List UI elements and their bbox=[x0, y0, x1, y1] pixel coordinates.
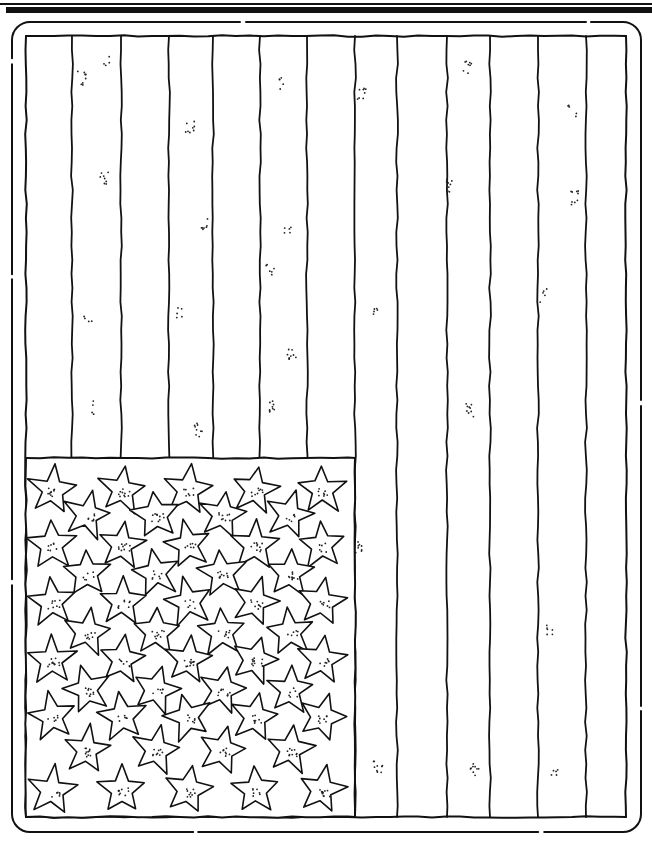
thin-rule bbox=[0, 3, 652, 5]
stipple-cluster bbox=[551, 769, 559, 776]
stipple-cluster bbox=[284, 226, 292, 233]
stipple-cluster bbox=[355, 541, 363, 554]
stipple-cluster bbox=[570, 190, 579, 205]
stipple-cluster bbox=[539, 288, 547, 303]
thick-rule bbox=[6, 7, 652, 13]
stripe-divider bbox=[489, 36, 491, 817]
stipple-cluster bbox=[463, 60, 473, 74]
stipple-cluster bbox=[91, 400, 94, 415]
stipple-cluster bbox=[279, 77, 285, 90]
stipple-cluster bbox=[373, 760, 384, 773]
stipple-cluster bbox=[83, 316, 92, 323]
stipple-cluster bbox=[77, 71, 87, 86]
flag-illustration bbox=[0, 0, 652, 841]
inner-border-top bbox=[26, 35, 626, 37]
stripe-divider bbox=[537, 36, 539, 817]
stripe-divider bbox=[446, 36, 448, 817]
stipple-cluster bbox=[194, 422, 203, 437]
header-rule-lines bbox=[0, 3, 652, 13]
inner-border-right bbox=[625, 36, 627, 817]
stipple-cluster bbox=[287, 349, 297, 360]
stipple-cluster bbox=[185, 121, 195, 134]
stipple-cluster bbox=[176, 307, 183, 319]
stipple-cluster bbox=[567, 105, 577, 118]
stripe-divider bbox=[396, 36, 398, 817]
stipple-cluster bbox=[465, 403, 474, 418]
stipple-cluster bbox=[357, 88, 367, 100]
stipple-cluster bbox=[373, 308, 379, 315]
stipple-cluster bbox=[265, 264, 275, 276]
canton-right bbox=[354, 458, 355, 817]
stipple-cluster bbox=[546, 624, 553, 635]
stipple-cluster bbox=[99, 171, 109, 184]
stipple-cluster bbox=[470, 763, 480, 776]
stipple-cluster bbox=[269, 400, 275, 412]
stipple-cluster bbox=[103, 56, 110, 66]
stripe-divider bbox=[585, 36, 587, 817]
coloring-page bbox=[0, 0, 652, 841]
stipple-cluster bbox=[201, 218, 209, 230]
